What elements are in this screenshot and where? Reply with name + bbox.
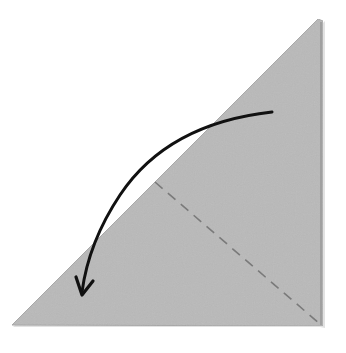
- paper-triangle: [12, 19, 323, 326]
- origami-diagram: [0, 0, 346, 353]
